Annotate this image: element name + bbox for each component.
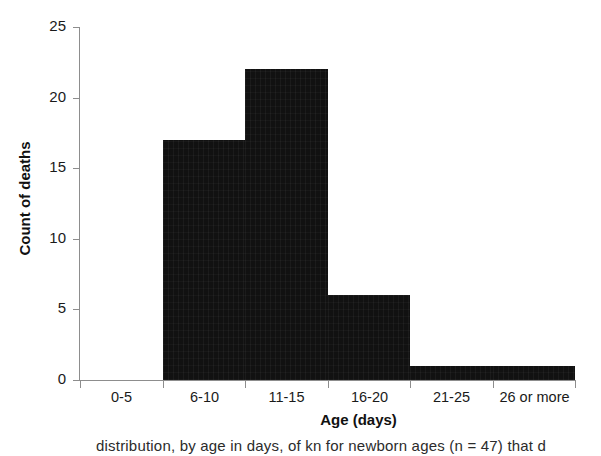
bar-26-or-more — [493, 366, 575, 380]
page-caption: distribution, by age in days, of kn for … — [0, 440, 601, 456]
y-axis-tick — [73, 98, 80, 99]
plot-area — [80, 27, 575, 380]
x-axis-title-text: Age (days) — [320, 411, 397, 428]
y-axis-tick — [73, 239, 80, 240]
x-axis-tick-label: 0-5 — [80, 389, 163, 405]
y-axis-tick-label: 20 — [34, 88, 66, 105]
y-axis-tick-label: 0 — [34, 370, 66, 387]
y-axis-tick — [73, 380, 80, 381]
y-axis-tick-label: 25 — [34, 17, 66, 34]
x-axis-tick-label: 11-15 — [245, 389, 328, 405]
y-axis-title: Count of deaths — [16, 89, 33, 309]
x-axis-title: Age (days) — [0, 411, 601, 428]
histogram-figure: Count of deaths 0510152025 0-56-1011-151… — [0, 0, 601, 456]
x-axis-tick-label: 26 or more — [493, 389, 576, 405]
x-axis-tick — [493, 381, 494, 388]
bar-6-10 — [163, 140, 245, 380]
bar-16-20 — [328, 295, 410, 380]
y-axis-tick — [73, 309, 80, 310]
x-axis-tick-label: 21-25 — [410, 389, 493, 405]
y-axis-tick — [73, 27, 80, 28]
x-axis-tick — [328, 381, 329, 388]
bar-21-25 — [410, 366, 493, 380]
x-axis-tick — [163, 381, 164, 388]
x-axis-tick-label: 16-20 — [328, 389, 411, 405]
x-axis-tick-label: 6-10 — [163, 389, 246, 405]
page-caption-text: distribution, by age in days, of kn for … — [96, 440, 546, 454]
y-axis-tick-label: 15 — [34, 158, 66, 175]
x-axis-tick — [80, 381, 81, 388]
x-axis-tick — [410, 381, 411, 388]
x-axis-tick — [575, 381, 576, 388]
y-axis-tick-label: 5 — [34, 299, 66, 316]
y-axis-tick-label: 10 — [34, 229, 66, 246]
y-axis-tick — [73, 168, 80, 169]
x-axis-tick — [245, 381, 246, 388]
bar-11-15 — [245, 69, 328, 380]
